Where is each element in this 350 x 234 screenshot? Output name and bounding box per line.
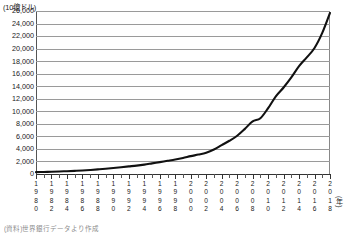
x-axis-tick-mark: [98, 174, 99, 179]
x-axis-tick-label: 2000: [185, 180, 197, 214]
x-axis-tick-mark: [113, 174, 114, 179]
x-axis-tick-mark: [276, 174, 277, 178]
x-axis-tick-mark: [291, 174, 292, 178]
x-axis-tick-mark: [284, 174, 285, 179]
x-axis-tick-mark: [206, 174, 207, 179]
x-axis-tick-label: 1992: [123, 180, 135, 214]
y-axis-tick-label: 26,000: [2, 7, 34, 14]
x-axis-tick-mark: [237, 174, 238, 179]
y-axis-tick-label: 2,000: [2, 158, 34, 165]
y-axis-tick-label: 6,000: [2, 133, 34, 140]
x-axis-tick-mark: [51, 174, 52, 179]
series-line: [36, 11, 330, 174]
x-axis-tick-mark: [59, 174, 60, 178]
x-axis-tick-mark: [75, 174, 76, 178]
x-axis-tick-mark: [183, 174, 184, 178]
x-axis-tick-label: 2004: [216, 180, 228, 214]
x-axis-tick-label: 1982: [45, 180, 57, 214]
x-axis-tick-label: 2006: [231, 180, 243, 214]
y-axis-tick-label: 24,000: [2, 20, 34, 27]
x-axis-tick-mark: [322, 174, 323, 178]
x-axis-tick-label: 2008: [247, 180, 259, 214]
x-axis-tick-mark: [152, 174, 153, 178]
x-axis-tick-mark: [214, 174, 215, 178]
x-axis-tick-mark: [168, 174, 169, 178]
source-footnote: (資料)世界銀行データより作成: [4, 225, 99, 234]
x-axis-tick-mark: [222, 174, 223, 179]
x-axis-tick-label: 1996: [154, 180, 166, 214]
x-axis-tick-label: 1994: [138, 180, 150, 214]
x-axis-tick-mark: [229, 174, 230, 178]
x-axis-tick-mark: [36, 174, 37, 179]
y-axis-tick-label: 10,000: [2, 108, 34, 115]
y-axis-tick-label: 0: [2, 170, 34, 177]
x-axis-tick-label: 2016: [309, 180, 321, 214]
x-axis-tick-label: 1990: [107, 180, 119, 214]
chart-figure: (10億ドル) 26,00024,00022,00020,00018,00016…: [0, 0, 350, 234]
x-axis-tick-mark: [253, 174, 254, 179]
x-axis-unit-label: (年): [336, 196, 343, 208]
x-axis-tick-mark: [144, 174, 145, 179]
x-axis-tick-mark: [106, 174, 107, 178]
y-axis-tick-label: 8,000: [2, 120, 34, 127]
x-axis-tick-label: 1984: [61, 180, 73, 214]
x-axis-tick-mark: [299, 174, 300, 179]
x-axis-tick-mark: [82, 174, 83, 179]
x-axis-tick-mark: [67, 174, 68, 179]
x-axis-tick-mark: [268, 174, 269, 179]
x-axis-tick-mark: [260, 174, 261, 178]
x-axis-tick-mark: [121, 174, 122, 178]
x-axis-tick-label: 1980: [30, 180, 42, 214]
y-axis-tick-label: 14,000: [2, 83, 34, 90]
y-axis-tick-label: 12,000: [2, 95, 34, 102]
y-axis-tick-label: 20,000: [2, 45, 34, 52]
x-axis-tick-label: 1988: [92, 180, 104, 214]
x-axis-tick-mark: [245, 174, 246, 178]
x-axis-tick-label: 2018: [324, 180, 336, 214]
x-axis-tick-mark: [307, 174, 308, 178]
x-axis-tick-mark: [160, 174, 161, 179]
x-axis-tick-mark: [44, 174, 45, 178]
x-axis-tick-label: 1998: [169, 180, 181, 214]
x-axis-tick-mark: [191, 174, 192, 179]
x-axis-tick-label: 1986: [76, 180, 88, 214]
x-axis-tick-mark: [315, 174, 316, 179]
y-axis-tick-label: 16,000: [2, 70, 34, 77]
x-axis-tick-mark: [90, 174, 91, 178]
x-axis-tick-mark: [137, 174, 138, 178]
x-axis-tick-label: 2002: [200, 180, 212, 214]
y-axis-tick-label: 22,000: [2, 32, 34, 39]
y-axis-tick-label: 18,000: [2, 58, 34, 65]
x-axis-tick-mark: [330, 174, 331, 179]
x-axis-tick-mark: [129, 174, 130, 179]
x-axis-tick-mark: [175, 174, 176, 179]
y-axis-tick-label: 4,000: [2, 145, 34, 152]
x-axis-tick-label: 2012: [278, 180, 290, 214]
x-axis-tick-label: 2014: [293, 180, 305, 214]
x-axis-tick-label: 2010: [262, 180, 274, 214]
x-axis-tick-mark: [198, 174, 199, 178]
